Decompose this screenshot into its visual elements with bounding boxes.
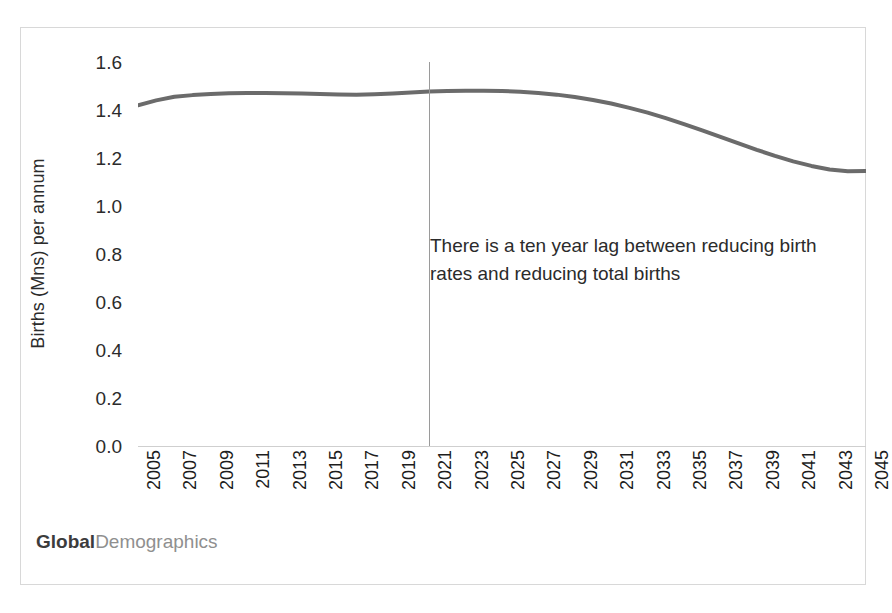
x-axis-tick-label: 2043 xyxy=(837,450,855,520)
y-axis-tick-label: 0.6 xyxy=(70,293,122,312)
x-axis-tick-label: 2009 xyxy=(218,450,236,520)
x-axis-tick-label: 2019 xyxy=(400,450,418,520)
y-axis-tick-labels: 1.61.41.21.00.80.60.40.20.0 xyxy=(70,48,122,460)
x-axis-tick-label: 2017 xyxy=(363,450,381,520)
y-axis-tick-label: 0.0 xyxy=(70,437,122,456)
x-axis-tick-label: 2015 xyxy=(327,450,345,520)
x-axis-tick-label: 2021 xyxy=(436,450,454,520)
brand-secondary-text: Demographics xyxy=(95,531,218,552)
x-axis-tick-label: 2023 xyxy=(473,450,491,520)
x-axis-tick-label: 2045 xyxy=(873,450,891,520)
x-axis-baseline xyxy=(138,446,866,447)
y-axis-tick-label: 0.4 xyxy=(70,341,122,360)
x-axis-tick-label: 2027 xyxy=(545,450,563,520)
brand-primary-text: Global xyxy=(36,531,95,552)
x-axis-tick-label: 2039 xyxy=(764,450,782,520)
x-axis-tick-label: 2013 xyxy=(291,450,309,520)
x-axis-tick-label: 2007 xyxy=(181,450,199,520)
x-axis-tick-label: 2031 xyxy=(618,450,636,520)
y-axis-tick-label: 0.8 xyxy=(70,245,122,264)
x-axis-tick-label: 2029 xyxy=(582,450,600,520)
x-axis-tick-label: 2041 xyxy=(800,450,818,520)
y-axis-tick-label: 1.6 xyxy=(70,53,122,72)
x-axis-tick-label: 2037 xyxy=(727,450,745,520)
y-axis-tick-label: 1.0 xyxy=(70,197,122,216)
x-axis-tick-label: 2005 xyxy=(145,450,163,520)
y-axis-title: Births (Mns) per annum xyxy=(28,154,49,354)
y-axis-tick-label: 0.2 xyxy=(70,389,122,408)
x-axis-tick-label: 2011 xyxy=(254,450,272,520)
x-axis-tick-label: 2033 xyxy=(655,450,673,520)
x-axis-tick-label: 2035 xyxy=(691,450,709,520)
x-axis-tick-labels: 2005200720092011201320152017201920212023… xyxy=(138,450,866,520)
y-axis-tick-label: 1.4 xyxy=(70,101,122,120)
chart-annotation: There is a ten year lag between reducing… xyxy=(430,232,820,287)
y-axis-tick-label: 1.2 xyxy=(70,149,122,168)
brand-footer: GlobalDemographics xyxy=(36,531,218,553)
x-axis-tick-label: 2025 xyxy=(509,450,527,520)
births-line-series xyxy=(138,91,866,171)
